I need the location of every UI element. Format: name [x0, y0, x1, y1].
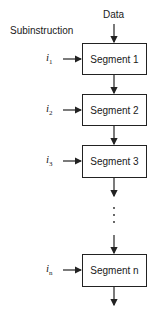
input-i1-label: i1 [46, 51, 53, 66]
input-i2-label: i2 [46, 102, 53, 117]
segment-n-box: Segment n [82, 254, 147, 287]
data-label: Data [103, 9, 124, 20]
input-i3-label: i3 [46, 153, 53, 168]
segment-3-box: Segment 3 [82, 145, 147, 178]
segment-label: Segment n [90, 265, 138, 276]
segment-2-box: Segment 2 [82, 94, 147, 126]
segment-label: Segment 2 [90, 105, 138, 116]
segment-label: Segment 3 [90, 156, 138, 167]
input-in-label: in [46, 262, 53, 277]
segment-1-box: Segment 1 [82, 43, 147, 75]
segment-label: Segment 1 [90, 54, 138, 65]
ellipsis-dots [113, 207, 115, 223]
subinstruction-header: Subinstruction [10, 25, 73, 36]
